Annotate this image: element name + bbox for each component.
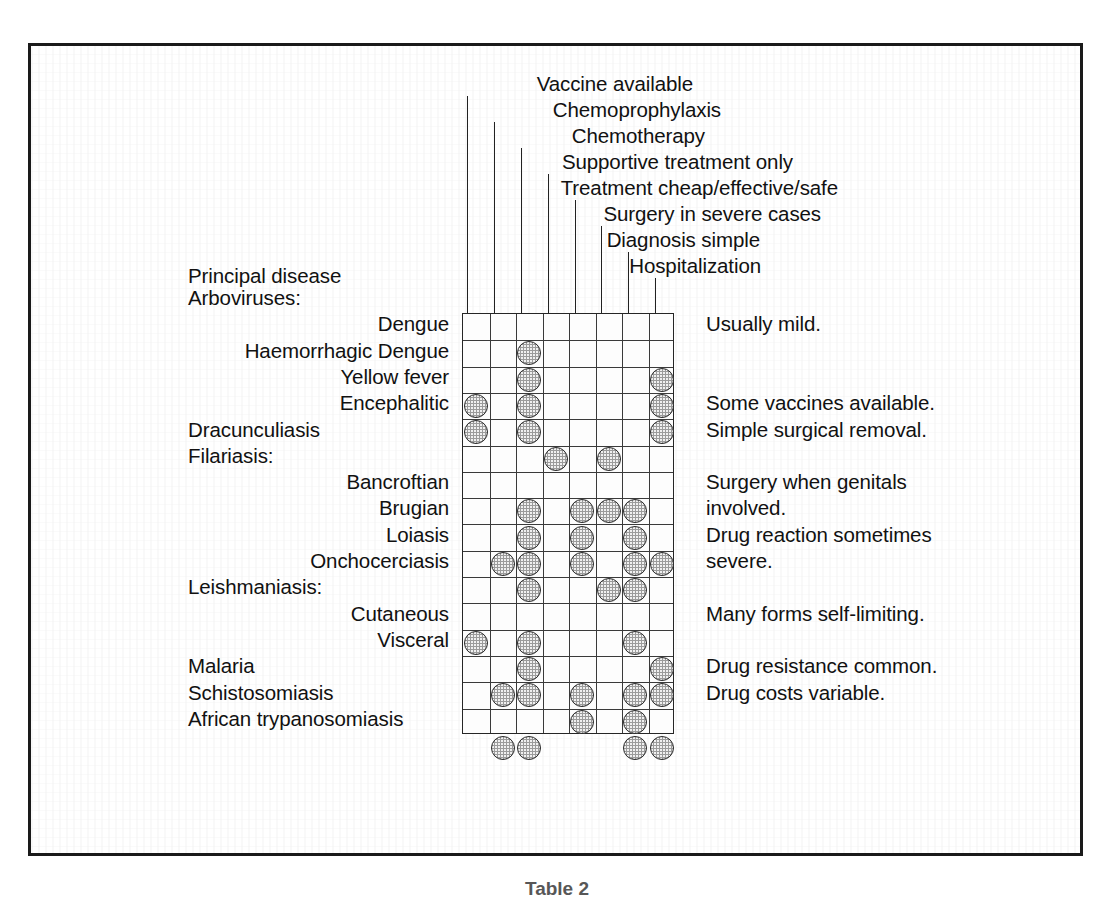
note-text: Some vaccines available. [706,393,935,414]
matrix-dot [517,631,541,655]
column-header-diagnosis: Diagnosis simple [607,230,760,251]
matrix-dot [570,526,594,550]
matrix-dot [623,683,647,707]
matrix-dot [464,394,488,418]
grid-line-horizontal [463,630,673,631]
row-label-dracunculiasis: Dracunculiasis [188,420,320,441]
matrix-dot [491,552,515,576]
grid-line-horizontal [463,656,673,657]
row-header-label: Principal disease [188,266,341,287]
note-text: Drug costs variable. [706,683,885,704]
matrix-dot [623,631,647,655]
leader-line-chemoprophylaxis [494,122,495,313]
matrix-dot [650,552,674,576]
grid-line-horizontal [463,472,673,473]
row-label-yellow-fever: Yellow fever [340,367,449,388]
row-label-bancroftian: Bancroftian [346,472,449,493]
row-label-arboviruses: Arboviruses: [188,288,301,309]
leader-line-vaccine [467,96,468,313]
note-text: Drug reaction sometimes [706,525,932,546]
row-label-filariasis: Filariasis: [188,446,273,467]
grid-line-horizontal [463,551,673,552]
column-header-surgery: Surgery in severe cases [603,204,821,225]
row-label-onchocerciasis: Onchocerciasis [310,551,449,572]
matrix-dot [570,683,594,707]
row-label-encephalitic: Encephalitic [340,393,449,414]
grid-line-horizontal [463,419,673,420]
matrix-dot [517,683,541,707]
leader-line-surgery [601,226,602,313]
matrix-dot [597,499,621,523]
matrix-dot [623,578,647,602]
column-header-vaccine: Vaccine available [537,74,693,95]
row-label-malaria: Malaria [188,656,255,677]
matrix-dot [623,499,647,523]
grid-line-horizontal [463,446,673,447]
column-header-cheap: Treatment cheap/effective/safe [561,178,838,199]
note-text: Drug resistance common. [706,656,937,677]
matrix-dot [570,499,594,523]
matrix-dot [650,420,674,444]
matrix-dot [570,710,594,734]
row-label-visceral: Visceral [377,630,449,651]
grid-line-horizontal [463,393,673,394]
note-text: severe. [706,551,773,572]
leader-line-cheap [575,200,576,313]
matrix-dot [544,447,568,471]
column-header-supportive: Supportive treatment only [562,152,793,173]
matrix-dot [650,394,674,418]
grid-line-horizontal [463,682,673,683]
grid-line-horizontal [463,577,673,578]
matrix-dot [517,394,541,418]
row-label-loiasis: Loiasis [386,525,449,546]
row-label-african-trypanosomiasis: African trypanosomiasis [188,709,403,730]
matrix-dot [517,420,541,444]
leader-line-hospital [655,278,656,313]
matrix-dot [650,368,674,392]
matrix-dot [597,578,621,602]
note-text: Surgery when genitals [706,472,907,493]
grid-line-horizontal [463,603,673,604]
matrix-dot [491,683,515,707]
matrix-dot [650,683,674,707]
grid-line-horizontal [463,498,673,499]
matrix-dot [650,657,674,681]
matrix-dot [623,710,647,734]
note-text: Usually mild. [706,314,821,335]
leader-line-supportive [548,174,549,313]
grid-line-horizontal [463,367,673,368]
matrix-dot [464,631,488,655]
matrix-dot [517,341,541,365]
figure-caption: Table 2 [0,878,1114,898]
matrix-dot [517,526,541,550]
grid-line-horizontal [463,340,673,341]
matrix-dot [464,420,488,444]
grid-line-horizontal [463,709,673,710]
note-text: involved. [706,498,786,519]
note-text: Simple surgical removal. [706,420,927,441]
row-label-dengue: Dengue [378,314,449,335]
matrix-dot [491,736,515,760]
matrix-dot [517,499,541,523]
matrix-dot [517,368,541,392]
matrix-dot [517,657,541,681]
column-header-chemotherapy: Chemotherapy [572,126,705,147]
row-label-leishmaniasis: Leishmaniasis: [188,577,322,598]
matrix-dot [623,526,647,550]
grid-line-horizontal [463,524,673,525]
row-label-haemorrhagic-dengue: Haemorrhagic Dengue [245,341,449,362]
row-label-schistosomiasis: Schistosomiasis [188,683,333,704]
row-label-cutaneous: Cutaneous [351,604,449,625]
matrix-dot [570,552,594,576]
leader-line-chemotherapy [521,148,522,313]
matrix-dot [597,447,621,471]
row-label-brugian: Brugian [379,498,449,519]
column-header-chemoprophylaxis: Chemoprophylaxis [553,100,721,121]
matrix-dot [517,552,541,576]
matrix-dot [623,552,647,576]
matrix-dot [650,736,674,760]
attribute-matrix [462,313,674,734]
matrix-dot [517,578,541,602]
note-text: Many forms self-limiting. [706,604,925,625]
column-header-hospital: Hospitalization [629,256,761,277]
